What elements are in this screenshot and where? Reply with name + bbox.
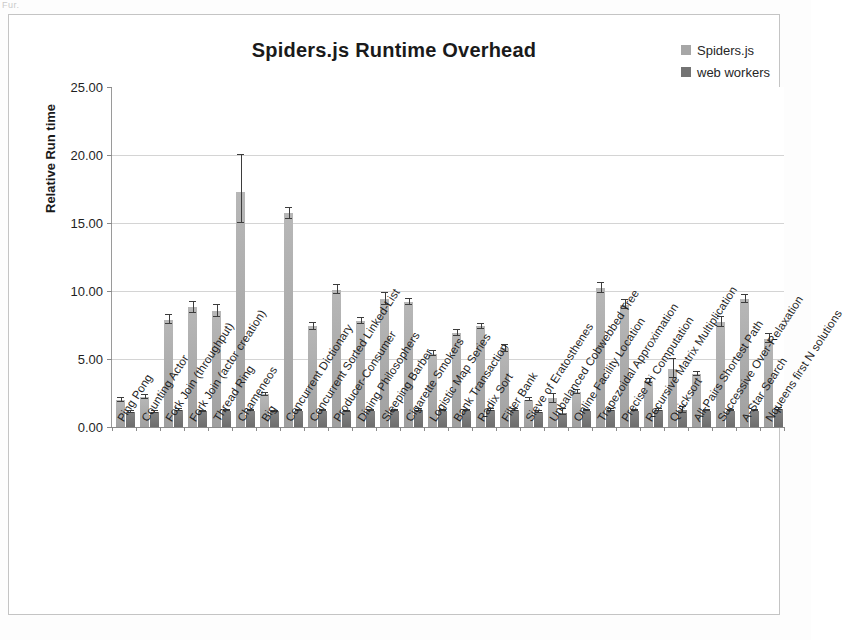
error-bar-cap-lower [189,312,195,313]
error-bar-cap-lower [405,304,411,305]
x-tick-mark [520,427,521,431]
error-bar-cap-upper [741,294,747,295]
error-bar-cap-lower [357,323,363,324]
x-tick-mark [568,427,569,431]
cropped-page-artifact: Fur. [2,0,54,11]
error-bar-cap-lower [309,329,315,330]
y-tick-label: 15.00 [70,216,103,231]
error-bar-cap-lower [717,326,723,327]
y-tick-label: 0.00 [78,420,103,435]
error-bar-cap-lower [741,302,747,303]
y-axis-title: Relative Run time [43,104,58,213]
x-tick-mark [664,427,665,431]
x-tick-mark [424,427,425,431]
chart-frame: Spiders.js Runtime Overhead Spiders.jswe… [8,14,780,615]
error-bar-cap-upper [405,298,411,299]
error-bar-cap-upper [693,371,699,372]
error-bar-cap-upper [525,397,531,398]
y-tick-label: 25.00 [70,80,103,95]
legend-item-label: web workers [697,65,770,80]
y-tick-label: 10.00 [70,284,103,299]
error-bar-cap-upper [597,282,603,283]
chart-legend: Spiders.jsweb workers [681,39,801,83]
error-bar [241,155,242,223]
x-tick-mark [280,427,281,431]
x-tick-mark [688,427,689,431]
error-bar-cap-upper [453,329,459,330]
error-bar-cap-lower [525,400,531,401]
bar-spiders-js[interactable] [284,213,293,427]
x-tick-mark [304,427,305,431]
bar-group [280,87,304,427]
x-tick-mark [352,427,353,431]
error-bar-cap-lower [141,398,147,399]
x-tick-mark [784,427,785,431]
error-bar-cap-lower [165,323,171,324]
error-bar-cap-lower [477,328,483,329]
error-bar-cap-upper [477,323,483,324]
legend-item-label: Spiders.js [697,43,754,58]
x-tick-mark [256,427,257,431]
error-bar-cap-lower [237,222,243,223]
error-bar-cap-lower [597,292,603,293]
error-bar-cap-lower [285,218,291,219]
y-tick-label: 5.00 [78,352,103,367]
x-tick-mark [760,427,761,431]
x-tick-mark [208,427,209,431]
x-tick-mark [184,427,185,431]
y-tick-label: 20.00 [70,148,103,163]
legend-swatch-icon [681,67,691,77]
x-tick-mark [112,427,113,431]
error-bar-cap-lower [117,401,123,402]
x-tick-mark [400,427,401,431]
x-tick-mark [712,427,713,431]
error-bar-cap-upper [237,154,243,155]
error-bar-cap-upper [309,322,315,323]
x-tick-mark [592,427,593,431]
legend-item-1[interactable]: Spiders.js [681,39,801,61]
legend-swatch-icon [681,45,691,55]
error-bar-cap-upper [189,301,195,302]
x-tick-mark [616,427,617,431]
chart-title: Spiders.js Runtime Overhead [129,39,659,62]
x-tick-mark [472,427,473,431]
error-bar-cap-upper [285,207,291,208]
x-tick-mark [640,427,641,431]
x-tick-mark [448,427,449,431]
x-tick-mark [328,427,329,431]
x-tick-mark [232,427,233,431]
x-tick-mark [544,427,545,431]
bar-group [688,87,712,427]
error-bar-cap-lower [333,293,339,294]
x-tick-mark [736,427,737,431]
x-tick-mark [136,427,137,431]
error-bar-cap-upper [117,397,123,398]
x-tick-mark [160,427,161,431]
bar-group [112,87,136,427]
error-bar-cap-upper [165,314,171,315]
error-bar-cap-upper [333,284,339,285]
error-bar-cap-upper [213,304,219,305]
x-tick-mark [496,427,497,431]
error-bar-cap-upper [357,317,363,318]
error-bar-cap-lower [213,316,219,317]
x-tick-mark [376,427,377,431]
legend-item-2[interactable]: web workers [681,61,801,83]
